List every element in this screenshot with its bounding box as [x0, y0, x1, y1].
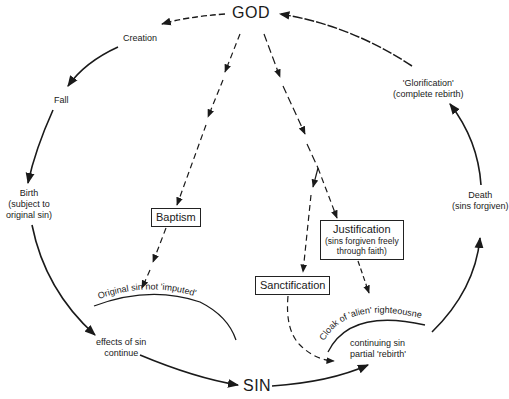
arrow-continuing-to-death: [432, 238, 480, 332]
arrow-baptism-to-original-sin: [153, 228, 166, 262]
baptism-title: Baptism: [156, 211, 196, 224]
effects-label: effects of sin continue: [96, 337, 146, 359]
arrow-creation-to-fall: [68, 47, 118, 86]
arrow-god-to-split-c: [307, 144, 318, 168]
creation-label: Creation: [123, 33, 157, 44]
birth-sub1: (subject to: [8, 199, 50, 209]
arrow-god-to-split-a: [264, 34, 280, 77]
arrow-birth-to-effects: [32, 225, 95, 335]
death-label: Death (sins forgiven): [452, 190, 509, 212]
glorification-sub: (complete rebirth): [393, 89, 464, 99]
arrow-god-to-baptism-a: [225, 34, 240, 72]
birth-label: Birth (subject to original sin): [6, 188, 52, 220]
justification-box: Justification (sins forgiven freely thro…: [320, 220, 404, 260]
death-sub: (sins forgiven): [452, 201, 509, 211]
justification-title: Justification: [325, 223, 399, 236]
arrow-split-to-justification: [318, 168, 337, 218]
glorification-label: 'Glorification' (complete rebirth): [393, 78, 464, 100]
original-sin-arc-line: [94, 294, 236, 340]
arrow-fall-to-birth: [28, 110, 53, 183]
arrow-split-to-sanctification-b: [303, 195, 311, 272]
arrow-god-to-creation: [162, 14, 225, 24]
arrow-justification-to-cloak: [358, 261, 369, 293]
continuing-label: continuing sin partial 'rebirth': [350, 338, 406, 360]
death-title: Death: [468, 190, 492, 200]
justification-sub1: (sins forgiven freely: [325, 236, 399, 246]
arrow-god-to-baptism-c: [177, 125, 206, 205]
sanctification-box: Sanctification: [255, 276, 330, 295]
arrow-death-to-glorification: [450, 104, 481, 185]
arrow-god-to-baptism-b: [208, 80, 223, 117]
sanctification-title: Sanctification: [260, 279, 325, 292]
arrow-god-to-split-b: [283, 86, 305, 134]
glorification-title: 'Glorification': [403, 78, 454, 88]
continuing-line2: partial 'rebirth': [350, 349, 406, 359]
justification-sub2: through faith): [325, 246, 399, 256]
birth-title: Birth: [20, 188, 39, 198]
arrow-sin-to-continuing: [272, 365, 368, 386]
arrow-effects-to-sin: [140, 355, 238, 385]
god-label: GOD: [232, 3, 270, 22]
effects-line1: effects of sin: [96, 337, 146, 347]
cloak-arc-label: Cloak of 'alien' righteousness: [0, 0, 423, 342]
arrow-glorification-to-god: [280, 14, 412, 66]
continuing-line1: continuing sin: [350, 338, 405, 348]
effects-line2: continue: [104, 348, 138, 358]
baptism-box: Baptism: [151, 208, 201, 227]
fall-label: Fall: [54, 95, 69, 106]
birth-sub2: original sin): [6, 210, 52, 220]
sin-label: SIN: [243, 376, 271, 395]
arrow-split-to-sanctification: [313, 168, 318, 187]
